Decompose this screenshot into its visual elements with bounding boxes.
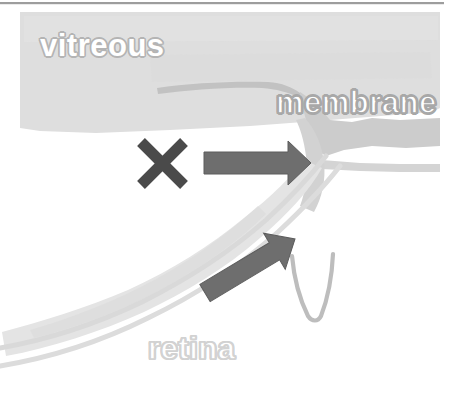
horizontal-traction-arrow xyxy=(204,141,311,185)
label-membrane: membrane xyxy=(276,87,437,118)
medical-illustration-figure: vitreous membrane retina xyxy=(0,0,458,394)
v-shaped-fold xyxy=(292,254,333,321)
vitreous-texture-b xyxy=(150,52,432,82)
x-mark xyxy=(141,142,184,185)
label-vitreous: vitreous xyxy=(40,30,165,61)
top-rule xyxy=(0,2,444,4)
label-retina: retina xyxy=(148,333,235,364)
